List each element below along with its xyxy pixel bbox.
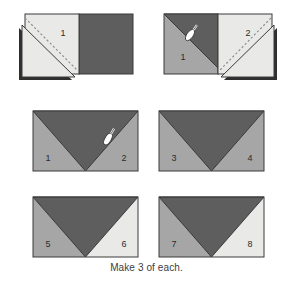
- step-top-right-diagram: 1 2: [157, 8, 287, 88]
- piece-label-7: 7: [171, 239, 176, 249]
- step-bottom-right-diagram: 7 8: [158, 196, 268, 262]
- piece-label-5: 5: [45, 239, 50, 249]
- illustration-sheet: 1 1 2: [0, 0, 293, 282]
- piece-label-1: 1: [180, 52, 185, 62]
- piece-label-1: 1: [45, 153, 50, 163]
- step-mid-left-diagram: 1 2: [32, 110, 142, 176]
- piece-label-8: 8: [247, 239, 252, 249]
- piece-label-4: 4: [247, 153, 252, 163]
- piece-label-2: 2: [121, 153, 126, 163]
- dark-square: [79, 14, 133, 74]
- step-mid-left-svg: 1 2: [32, 110, 142, 176]
- step-mid-right-svg: 3 4: [158, 110, 268, 176]
- piece-label-6: 6: [121, 239, 126, 249]
- step-top-right-svg: 1 2: [157, 8, 287, 88]
- step-mid-right-diagram: 3 4: [158, 110, 268, 176]
- step-bottom-left-svg: 5 6: [32, 196, 142, 262]
- piece-label-3: 3: [171, 153, 176, 163]
- figure-caption: Make 3 of each.: [0, 262, 293, 273]
- piece-label-1: 1: [60, 28, 65, 38]
- step-top-left-svg: 1: [14, 8, 140, 88]
- step-bottom-left-diagram: 5 6: [32, 196, 142, 262]
- step-bottom-right-svg: 7 8: [158, 196, 268, 262]
- piece-label-2: 2: [245, 28, 250, 38]
- step-top-left-diagram: 1: [14, 8, 140, 88]
